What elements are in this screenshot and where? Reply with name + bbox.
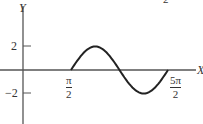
fraction-numerator: 5π <box>170 75 181 86</box>
fraction-denominator: 2 <box>66 89 72 100</box>
x-tick-label-pi-over-2: π 2 <box>66 75 72 100</box>
y-tick-label-2: 2 <box>11 40 17 52</box>
y-axis-label: Y <box>19 2 26 14</box>
cropped-fraction-fragment: 2 <box>163 0 169 5</box>
x-tick-label-5pi-over-2: 5π 2 <box>170 75 181 100</box>
fraction-denominator: 2 <box>173 89 179 100</box>
x-axis-label: X <box>197 64 203 76</box>
fraction-numerator: π <box>66 75 72 86</box>
plot-area <box>0 0 203 124</box>
y-tick-label-neg2: −2 <box>5 87 18 99</box>
